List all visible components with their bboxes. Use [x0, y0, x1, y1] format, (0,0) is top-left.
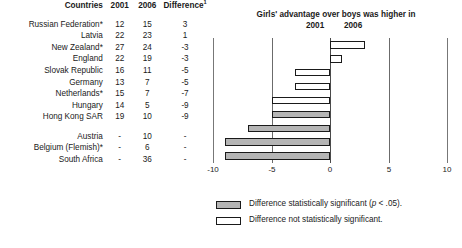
- cell-difference: 1: [162, 31, 208, 43]
- country-data-table-panel: Countries 2001 2006 Difference1 Russian …: [0, 0, 210, 248]
- bar-new-zealand: [295, 69, 330, 77]
- table-header: Countries 2001 2006 Difference1: [0, 0, 208, 19]
- x-axis-tick-0: 0: [328, 165, 332, 174]
- cell-country: Austria: [0, 131, 107, 143]
- column-header-2006: 2006: [133, 0, 163, 19]
- cell-country: South Africa: [0, 154, 107, 166]
- x-axis-tick-neg5: -5: [268, 165, 275, 174]
- cell-country: New Zealand*: [0, 42, 107, 54]
- table-row: England2219-3: [0, 54, 208, 66]
- cell-2001: 19: [107, 112, 133, 124]
- chart-side-labels: 2001 2006: [210, 21, 462, 32]
- bar-hong-kong-sar: [225, 152, 330, 160]
- cell-difference: -9: [162, 112, 208, 124]
- table-row: Hong Kong SAR1910-9: [0, 112, 208, 124]
- cell-difference: -: [162, 131, 208, 143]
- cell-2006: 5: [133, 100, 163, 112]
- chart-left-side-label-2001: 2001: [306, 21, 324, 30]
- cell-country: Russian Federation*: [0, 19, 107, 31]
- cell-2001: -: [107, 143, 133, 155]
- footnote-marker: 1: [204, 0, 207, 5]
- cell-2006: 24: [133, 42, 163, 54]
- cell-difference: -3: [162, 42, 208, 54]
- cell-difference: -7: [162, 89, 208, 101]
- table-group-spacer-cell: [0, 123, 208, 131]
- cell-2001: -: [107, 131, 133, 143]
- table-row: Germany137-5: [0, 77, 208, 89]
- bar-germany: [272, 111, 331, 119]
- cell-2006: 10: [133, 112, 163, 124]
- cell-2006: 23: [133, 31, 163, 43]
- column-header-difference-text: Difference: [163, 1, 203, 10]
- cell-country: Hungary: [0, 100, 107, 112]
- cell-country: Latvia: [0, 31, 107, 43]
- bar-england: [295, 83, 330, 91]
- bar-slovak-republic: [272, 97, 331, 105]
- chart-plot-area: [210, 38, 462, 163]
- gridline-5: [389, 38, 390, 163]
- cell-2006: 7: [133, 89, 163, 101]
- cell-2006: 15: [133, 19, 163, 31]
- cell-2006: 10: [133, 131, 163, 143]
- cell-difference: -5: [162, 77, 208, 89]
- cell-country: Germany: [0, 77, 107, 89]
- column-header-difference: Difference1: [162, 0, 208, 19]
- country-data-table: Countries 2001 2006 Difference1 Russian …: [0, 0, 208, 166]
- table-header-row: Countries 2001 2006 Difference1: [0, 0, 208, 19]
- gridline-neg10: [213, 38, 214, 163]
- legend-swatch-significant-icon: [216, 201, 241, 209]
- cell-2006: 19: [133, 54, 163, 66]
- cell-2001: -: [107, 154, 133, 166]
- legend-item-not-significant: Difference not statistically significant…: [210, 214, 462, 230]
- table-row: Latvia22231: [0, 31, 208, 43]
- bar-russian-federation: [330, 41, 365, 49]
- cell-2001: 27: [107, 42, 133, 54]
- cell-country: Belgium (Flemish)*: [0, 143, 107, 155]
- table-row: Netherlands*157-7: [0, 89, 208, 101]
- legend-label-significant: Difference statistically significant (p …: [249, 199, 402, 208]
- legend-item-significant: Difference statistically significant (p …: [210, 198, 462, 214]
- cell-2001: 12: [107, 19, 133, 31]
- cell-difference: 3: [162, 19, 208, 31]
- cell-2006: 11: [133, 66, 163, 78]
- cell-2001: 16: [107, 66, 133, 78]
- difference-bar-chart-panel: Girls' advantage over boys was higher in…: [210, 0, 462, 248]
- bar-netherlands: [248, 125, 330, 133]
- table-row: New Zealand*2724-3: [0, 42, 208, 54]
- bar-latvia: [330, 55, 342, 63]
- bar-hungary: [225, 138, 330, 146]
- x-axis-tick-5: 5: [387, 165, 391, 174]
- gridline-10: [447, 38, 448, 163]
- cell-2006: 7: [133, 77, 163, 89]
- cell-difference: -9: [162, 100, 208, 112]
- cell-difference: -: [162, 154, 208, 166]
- cell-difference: -5: [162, 66, 208, 78]
- cell-2001: 22: [107, 31, 133, 43]
- legend-swatch-not-significant-icon: [216, 217, 241, 225]
- cell-country: England: [0, 54, 107, 66]
- cell-2006: 6: [133, 143, 163, 155]
- table-row: Belgium (Flemish)*-6-: [0, 143, 208, 155]
- cell-difference: -3: [162, 54, 208, 66]
- column-header-countries: Countries: [0, 0, 107, 19]
- cell-2001: 22: [107, 54, 133, 66]
- table-row: South Africa-36-: [0, 154, 208, 166]
- chart-title: Girls' advantage over boys was higher in: [214, 10, 458, 19]
- chart-legend: Difference statistically significant (p …: [210, 198, 462, 230]
- cell-country: Netherlands*: [0, 89, 107, 101]
- legend-label-not-significant: Difference not statistically significant…: [249, 215, 383, 224]
- cell-2001: 13: [107, 77, 133, 89]
- cell-country: Hong Kong SAR: [0, 112, 107, 124]
- x-axis-tick-neg10: -10: [207, 165, 219, 174]
- x-axis-tick-10: 10: [443, 165, 452, 174]
- table-row: Hungary145-9: [0, 100, 208, 112]
- cell-country: Slovak Republic: [0, 66, 107, 78]
- cell-2001: 14: [107, 100, 133, 112]
- table-group-spacer: [0, 123, 208, 131]
- table-row: Slovak Republic1611-5: [0, 66, 208, 78]
- cell-2001: 15: [107, 89, 133, 101]
- cell-difference: -: [162, 143, 208, 155]
- chart-right-side-label-2006: 2006: [344, 21, 362, 30]
- x-axis-tick-labels: -10-50510: [210, 165, 462, 177]
- table-row: Austria-10-: [0, 131, 208, 143]
